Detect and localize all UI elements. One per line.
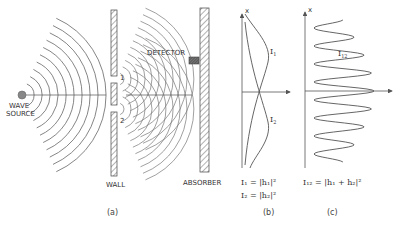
label-i12: I12 [338,49,348,59]
detector-label: DETECTOR [147,49,185,57]
detector-icon [189,57,199,64]
absorber [200,8,209,172]
equation-i2: I₂ = |h₂|² [241,191,276,200]
source-label-1: WAVE [9,102,29,110]
caption-c: (c) [327,208,338,217]
caption-a: (a) [107,208,118,217]
panel-a: WAVE SOURCE 1 2 WALL ABSORBER DETECTOR (… [6,8,222,217]
double-slit-diagram: WAVE SOURCE 1 2 WALL ABSORBER DETECTOR (… [0,0,397,231]
wave-source-icon [18,91,26,99]
label-i1: I1 [270,47,276,57]
axis-label-c: x [308,6,312,14]
equation-i1: I₁ = |h₁|² [241,178,276,187]
label-i2: I2 [270,115,276,125]
wall-label: WALL [106,181,125,189]
caption-b: (b) [263,208,274,217]
wall [111,10,117,176]
diffracted-wavefronts [120,8,194,180]
source-label-2: SOURCE [6,110,35,118]
equation-i12: I₁₂ = |h₁ + h₂|² [303,178,361,187]
panel-c: x I12 I₁₂ = |h₁ + h₂|² (c) [303,6,392,217]
absorber-label: ABSORBER [183,179,222,187]
axis-label-b: x [245,7,249,15]
panel-b: x I1 I2 I₁ = |h₁|² I₂ = |h₂|² (b) [241,7,290,217]
